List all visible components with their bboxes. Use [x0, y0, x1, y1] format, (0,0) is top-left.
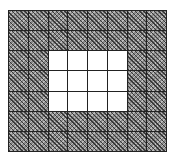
grid-cell-shaded	[128, 11, 147, 30]
grid-cell-white	[49, 92, 68, 111]
grid-cell-shaded	[147, 11, 166, 30]
grid-cell-shaded	[88, 11, 107, 30]
grid-cell-shaded	[49, 132, 68, 151]
grid-cell-shaded	[9, 31, 28, 50]
grid-cell-white	[88, 51, 107, 70]
grid-cell-shaded	[9, 51, 28, 70]
grid-cell-shaded	[68, 132, 87, 151]
grid-cell-shaded	[88, 31, 107, 50]
grid-cell-white	[68, 92, 87, 111]
grid-cell-shaded	[29, 112, 48, 131]
grid-cell-shaded	[29, 51, 48, 70]
grid-cell-shaded	[147, 51, 166, 70]
grid-cell-shaded	[128, 92, 147, 111]
grid-cell-shaded	[29, 11, 48, 30]
grid-diagram	[8, 10, 167, 152]
grid-cell-shaded	[128, 132, 147, 151]
grid-cell-shaded	[9, 71, 28, 90]
grid-cell-shaded	[9, 132, 28, 151]
grid-cell-shaded	[147, 31, 166, 50]
grid-cell-white	[88, 92, 107, 111]
grid-cell-white	[88, 71, 107, 90]
grid-cell-shaded	[68, 112, 87, 131]
grid-cell-white	[68, 71, 87, 90]
grid-cell-shaded	[88, 112, 107, 131]
grid-cell-shaded	[147, 132, 166, 151]
grid-cell-white	[108, 71, 127, 90]
grid-cell-shaded	[88, 132, 107, 151]
grid-cell-shaded	[29, 132, 48, 151]
grid-cell-shaded	[147, 112, 166, 131]
grid-cell-shaded	[108, 31, 127, 50]
grid-cell-shaded	[128, 71, 147, 90]
grid-cell-shaded	[128, 51, 147, 70]
grid-cell-white	[108, 51, 127, 70]
grid-cell-shaded	[29, 31, 48, 50]
grid-cell-white	[49, 51, 68, 70]
grid-cell-shaded	[128, 112, 147, 131]
grid-cell-shaded	[9, 112, 28, 131]
grid-cell-white	[49, 71, 68, 90]
grid-cell-shaded	[68, 11, 87, 30]
grid-cell-white	[108, 92, 127, 111]
grid-cell-shaded	[108, 112, 127, 131]
grid-cell-shaded	[29, 92, 48, 111]
grid-cell-shaded	[9, 92, 28, 111]
grid-cell-shaded	[29, 71, 48, 90]
grid-cell-shaded	[68, 31, 87, 50]
grid-cell-shaded	[9, 11, 28, 30]
grid-cell-shaded	[147, 92, 166, 111]
grid-cell-white	[68, 51, 87, 70]
grid-cell-shaded	[49, 11, 68, 30]
grid-cell-shaded	[49, 31, 68, 50]
grid-cell-shaded	[108, 11, 127, 30]
grid-cell-shaded	[128, 31, 147, 50]
grid-cell-shaded	[147, 71, 166, 90]
grid-cell-shaded	[49, 112, 68, 131]
grid-cell-shaded	[108, 132, 127, 151]
